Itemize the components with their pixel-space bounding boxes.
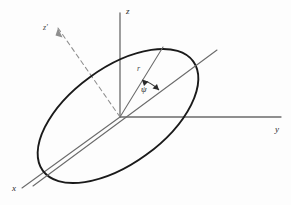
z-prime-axis-label: z' [42,23,48,32]
x-axis-label: x [11,183,16,193]
diagram-canvas: z y x z' r ψ [0,0,291,205]
z-axis-label: z [125,6,130,16]
physics-diagram-figure: z y x z' r ψ [0,0,291,205]
psi-angle-label: ψ [141,84,147,94]
y-axis-label: y [274,124,279,134]
